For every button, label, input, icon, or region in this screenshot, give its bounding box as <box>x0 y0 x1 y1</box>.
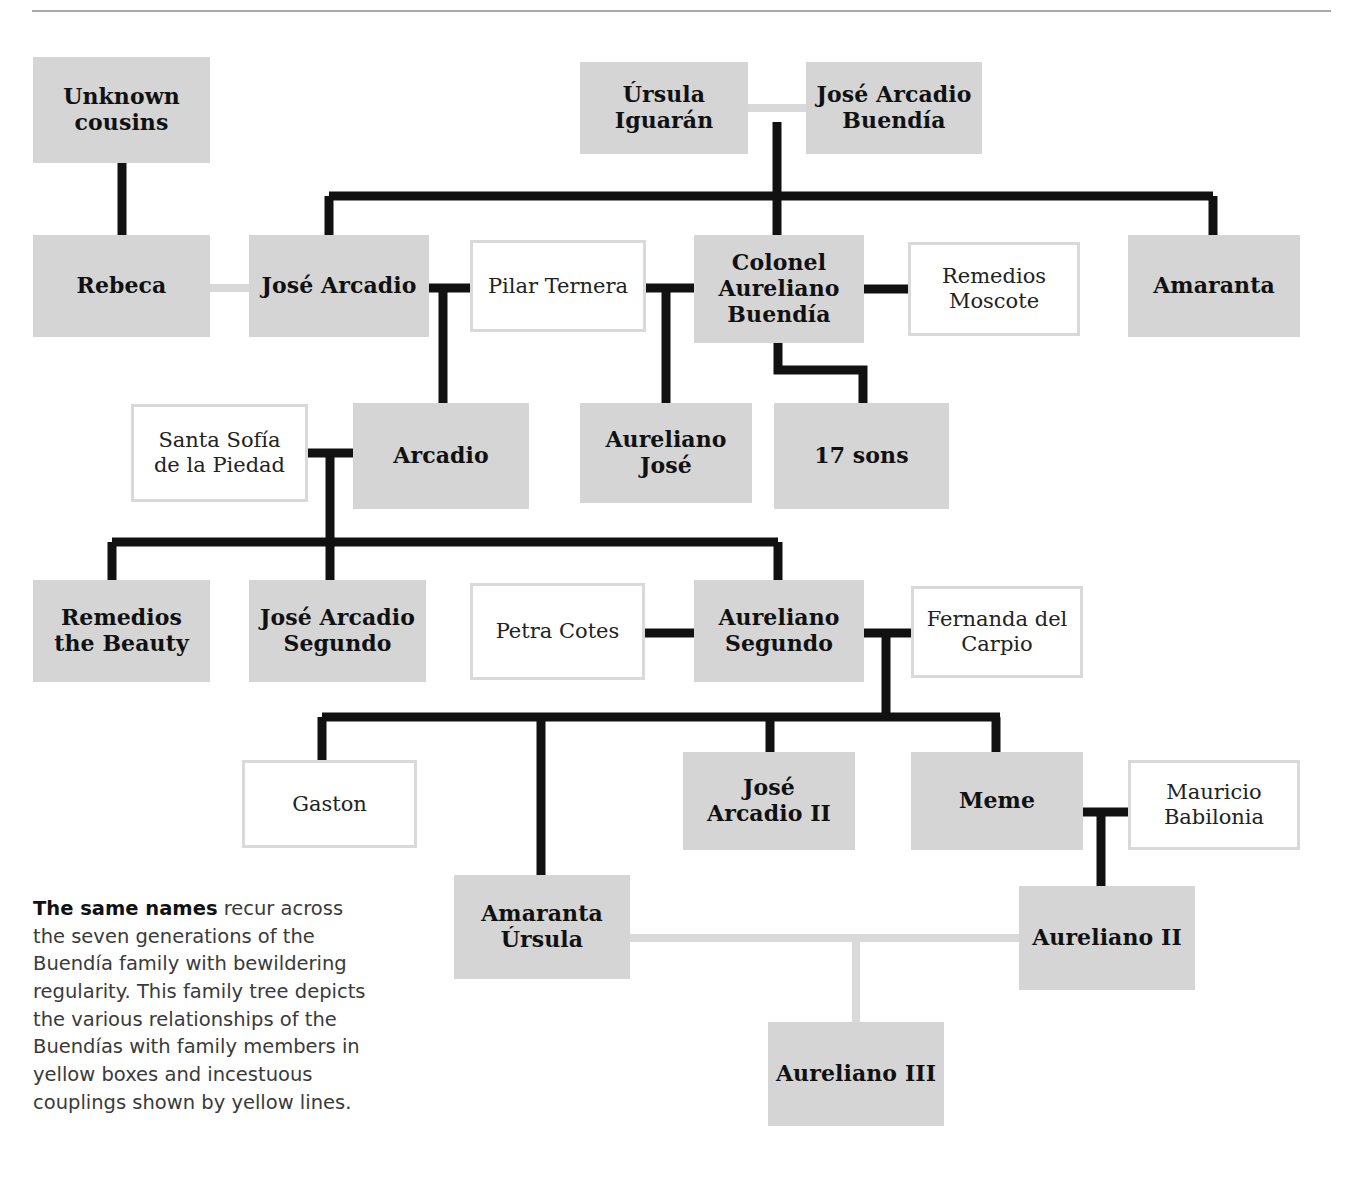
node-label: Úrsula Iguarán <box>609 82 719 134</box>
node-label: Rebeca <box>71 273 173 299</box>
node-meme[interactable]: Meme <box>911 752 1083 850</box>
node-label: Fernanda del Carpio <box>921 607 1074 657</box>
node-petra-cotes[interactable]: Petra Cotes <box>470 583 645 680</box>
node-gaston[interactable]: Gaston <box>242 760 417 848</box>
figure-caption: The same names recur across the seven ge… <box>33 895 378 1117</box>
node-label: Petra Cotes <box>490 619 626 644</box>
node-17-sons[interactable]: 17 sons <box>774 403 949 509</box>
caption-body: recur across the seven generations of th… <box>33 897 365 1114</box>
node-jose-arcadio-ii[interactable]: José Arcadio II <box>683 752 855 850</box>
node-label: Remedios Moscote <box>936 264 1052 314</box>
node-label: José Arcadio Segundo <box>254 605 421 657</box>
node-label: Unknown cousins <box>57 84 186 136</box>
node-label: Aureliano Segundo <box>712 605 845 657</box>
node-label: Colonel Aureliano Buendía <box>712 250 845 328</box>
node-jose-arcadio[interactable]: José Arcadio <box>249 235 429 337</box>
node-remedios-beauty[interactable]: Remedios the Beauty <box>33 580 210 682</box>
node-jose-arcadio-segundo[interactable]: José Arcadio Segundo <box>249 580 426 682</box>
node-santa-sofia[interactable]: Santa Sofía de la Piedad <box>131 404 308 502</box>
node-label: Amaranta <box>1147 273 1281 299</box>
node-label: Gaston <box>286 792 373 817</box>
node-label: José Arcadio Buendía <box>810 82 977 134</box>
node-label: Santa Sofía de la Piedad <box>148 428 291 478</box>
node-amaranta[interactable]: Amaranta <box>1128 235 1300 337</box>
node-mauricio-babilonia[interactable]: Mauricio Babilonia <box>1128 760 1300 850</box>
node-amaranta-ursula[interactable]: Amaranta Úrsula <box>454 875 630 979</box>
node-label: Mauricio Babilonia <box>1158 780 1270 830</box>
node-aureliano-jose[interactable]: Aureliano José <box>580 403 752 503</box>
node-label: Remedios the Beauty <box>48 605 195 657</box>
node-label: José Arcadio <box>255 273 422 299</box>
node-label: 17 sons <box>808 443 914 469</box>
caption-lead: The same names <box>33 897 218 920</box>
node-label: Aureliano III <box>770 1061 942 1087</box>
node-jose-arcadio-buendia[interactable]: José Arcadio Buendía <box>806 62 982 154</box>
node-aureliano-segundo[interactable]: Aureliano Segundo <box>694 580 864 682</box>
family-tree-figure: Unknown cousinsÚrsula IguaránJosé Arcadi… <box>0 0 1371 1204</box>
node-label: Aureliano II <box>1026 925 1188 951</box>
node-label: Pilar Ternera <box>482 274 634 299</box>
node-label: Meme <box>953 788 1041 814</box>
node-pilar-ternera[interactable]: Pilar Ternera <box>470 240 646 332</box>
line-colonel-to-17-sons <box>778 343 863 403</box>
node-label: José Arcadio II <box>701 775 837 827</box>
node-label: Arcadio <box>387 443 494 469</box>
node-label: Aureliano José <box>599 427 732 479</box>
node-unknown-cousins[interactable]: Unknown cousins <box>33 57 210 163</box>
node-aureliano-ii[interactable]: Aureliano II <box>1019 886 1195 990</box>
node-remedios-moscote[interactable]: Remedios Moscote <box>908 242 1080 336</box>
node-fernanda-del-carpio[interactable]: Fernanda del Carpio <box>911 586 1083 678</box>
node-aureliano-iii[interactable]: Aureliano III <box>768 1022 944 1126</box>
node-label: Amaranta Úrsula <box>475 901 609 953</box>
node-rebeca[interactable]: Rebeca <box>33 235 210 337</box>
node-colonel-aureliano[interactable]: Colonel Aureliano Buendía <box>694 235 864 343</box>
node-ursula-iguaran[interactable]: Úrsula Iguarán <box>580 62 748 154</box>
node-arcadio[interactable]: Arcadio <box>353 403 529 509</box>
